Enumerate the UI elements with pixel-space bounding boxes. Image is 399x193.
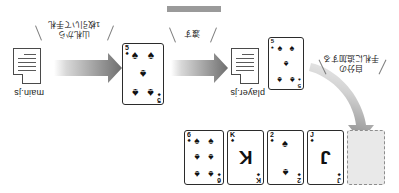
card-suit-icon: ♠ <box>337 171 341 177</box>
hand-card-placeholder[interactable] <box>347 130 385 185</box>
card-suit-icon: ♠ <box>195 136 200 146</box>
card-suit-icon: ♠ <box>132 49 138 61</box>
doc-line <box>18 62 36 63</box>
card-suit-icon: ♠ <box>132 87 138 99</box>
card-corner-top: K ♠ <box>256 171 261 183</box>
card-suit-icon: ♠ <box>290 43 295 52</box>
card-suit-icon: ♠ <box>208 169 213 179</box>
arrow-player-to-card <box>171 53 228 83</box>
card-suit-icon: ♠ <box>147 87 153 99</box>
card-corner-bottom: J ♠ <box>310 132 314 144</box>
card-suit-icon: ♠ <box>271 45 274 50</box>
card-suit-icon: ♠ <box>283 137 289 148</box>
card-big-rank: K <box>228 147 263 169</box>
diagram-canvas: J ♠ J J ♠ 2 ♠ ♠ ♠ 2 ♠ K ♠ K K ♠ <box>0 0 399 193</box>
card-suit-icon: ♠ <box>195 153 200 163</box>
card-suit-icon: ♠ <box>284 59 289 68</box>
card-suit-icon: ♠ <box>230 138 235 144</box>
card-suit-icon: ♠ <box>187 138 191 144</box>
file-icon-main-js[interactable] <box>13 48 41 84</box>
doc-line <box>236 58 254 59</box>
doc-line <box>18 58 36 59</box>
card-suit-icon: ♠ <box>147 49 153 61</box>
card-pip-layout: ♠ ♠ ♠ ♠ ♠ <box>269 38 303 89</box>
arrow-main-to-player <box>54 53 122 83</box>
card-suit-icon: ♠ <box>290 75 295 84</box>
file-label-player-js: player.js <box>230 88 265 98</box>
flow-card-main[interactable]: 5 ♠ ♠ ♠ ♠ ♠ ♠ 5 ♠ <box>122 43 164 105</box>
card-corner-bottom: 5 ♠ <box>271 39 274 49</box>
card-suit-icon: ♠ <box>283 167 289 178</box>
doc-line <box>18 70 36 71</box>
card-corner-bottom: 2 ♠ <box>270 132 274 144</box>
doc-line <box>236 62 254 63</box>
page-fold-icon <box>231 74 241 84</box>
file-label-main-js: main.js <box>14 88 44 98</box>
card-suit-icon: ♠ <box>277 43 282 52</box>
doc-line <box>24 54 36 55</box>
bottom-gray-bar <box>167 6 221 12</box>
card-corner-bottom: 5 ♠ <box>125 45 129 57</box>
hand-card-1[interactable]: J ♠ J J ♠ <box>307 130 344 185</box>
card-suit-icon: ♠ <box>270 138 274 144</box>
doc-lines <box>236 51 254 71</box>
annotation-pass-card: 渡す <box>175 28 209 38</box>
annotation-draw-card: 山札から 1枚引いて手札 <box>41 19 107 39</box>
hand-card-3[interactable]: K ♠ K K ♠ <box>227 130 264 185</box>
doc-line <box>242 54 254 55</box>
card-suit-icon: ♠ <box>208 153 213 163</box>
flow-card-player[interactable]: 5 ♠ ♠ ♠ ♠ ♠ ♠ 5 ♠ <box>268 37 304 90</box>
doc-lines <box>18 51 36 71</box>
hand-card-2[interactable]: 2 ♠ ♠ ♠ 2 ♠ <box>267 130 304 185</box>
annotation-add-to-hand: 自分の 手札に追加する <box>323 53 379 73</box>
card-suit-icon: ♠ <box>125 51 129 57</box>
card-suit-icon: ♠ <box>310 138 314 144</box>
card-suit-icon: ♠ <box>140 68 146 80</box>
doc-line <box>236 66 254 67</box>
doc-line <box>18 66 36 67</box>
card-suit-icon: ♠ <box>195 169 200 179</box>
card-corner-top: J ♠ <box>337 171 341 183</box>
file-icon-player-js[interactable] <box>231 48 259 84</box>
hand-card-4[interactable]: 6 ♠ ♠ ♠ ♠ ♠ ♠ ♠ 6 ♠ <box>184 130 224 185</box>
card-suit-icon: ♠ <box>208 136 213 146</box>
page-fold-icon <box>13 74 23 84</box>
card-big-rank: J <box>308 147 343 169</box>
card-corner-bottom: 6 ♠ <box>187 132 191 144</box>
doc-line <box>236 70 254 71</box>
card-corner-bottom: K ♠ <box>230 132 235 144</box>
card-suit-icon: ♠ <box>277 75 282 84</box>
card-suit-icon: ♠ <box>256 171 261 177</box>
